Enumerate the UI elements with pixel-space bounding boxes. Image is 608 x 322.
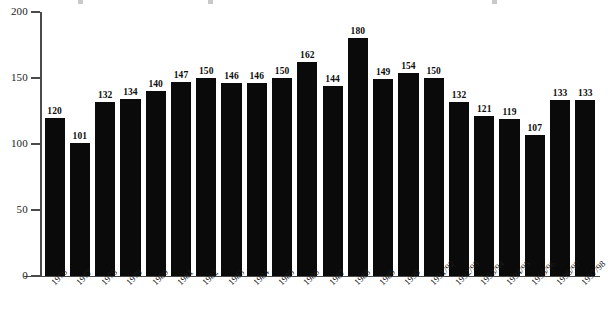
- bar-group: 119: [499, 12, 519, 276]
- bar-value-label: 119: [503, 107, 517, 117]
- y-tick-0: [31, 275, 40, 276]
- bar-value-label: 146: [250, 71, 265, 81]
- bar-value-label: 132: [452, 90, 467, 100]
- bar: [221, 83, 241, 276]
- bar: [323, 86, 343, 276]
- bar-value-label: 149: [376, 67, 391, 77]
- bar-group: 144: [323, 12, 343, 276]
- bar-value-label: 107: [528, 123, 543, 133]
- bar: [424, 78, 444, 276]
- bar-group: 120: [45, 12, 65, 276]
- bar-value-label: 133: [553, 88, 568, 98]
- x-axis-labels: 1976197719781979198019811982198319841985…: [42, 278, 598, 322]
- bar-value-label: 146: [224, 71, 239, 81]
- bar-value-label: 132: [98, 90, 113, 100]
- bar: [449, 102, 469, 276]
- bar-value-label: 180: [351, 26, 366, 36]
- bar-value-label: 134: [123, 87, 138, 97]
- bar-group: 149: [373, 12, 393, 276]
- bar-group: 133: [575, 12, 595, 276]
- bar-value-label: 133: [578, 88, 593, 98]
- y-tick-50: [31, 209, 40, 210]
- bar-group: 150: [196, 12, 216, 276]
- y-tick-label: 100: [0, 137, 28, 149]
- bar-value-label: 101: [73, 131, 88, 141]
- bar: [499, 119, 519, 276]
- bar-group: 146: [247, 12, 267, 276]
- bar-group: 154: [398, 12, 418, 276]
- bar-group: 101: [70, 12, 90, 276]
- bar-group: 150: [272, 12, 292, 276]
- bar: [272, 78, 292, 276]
- bar: [348, 38, 368, 276]
- bar-group: 134: [120, 12, 140, 276]
- scan-artifact: [0, 0, 602, 6]
- bar-group: 150: [424, 12, 444, 276]
- bar: [297, 62, 317, 276]
- bar-group: 162: [297, 12, 317, 276]
- bar: [525, 135, 545, 276]
- bar: [171, 82, 191, 276]
- bar-value-label: 144: [325, 74, 340, 84]
- bar-group: 140: [146, 12, 166, 276]
- y-tick-label: 50: [0, 203, 28, 215]
- bar: [247, 83, 267, 276]
- y-tick-label: 150: [0, 71, 28, 83]
- bar: [95, 102, 115, 276]
- bar-group: 132: [449, 12, 469, 276]
- bar: [575, 100, 595, 276]
- y-tick-100: [31, 143, 40, 144]
- bar-value-label: 150: [426, 66, 441, 76]
- bar-value-label: 121: [477, 104, 492, 114]
- bar: [45, 118, 65, 276]
- y-tick-label: 200: [0, 5, 28, 17]
- y-tick-200: [31, 11, 40, 12]
- bar: [196, 78, 216, 276]
- bar-value-label: 150: [199, 66, 214, 76]
- bar: [398, 73, 418, 276]
- bar-value-label: 140: [148, 79, 163, 89]
- y-tick-label: 0: [0, 269, 28, 281]
- bar-group: 133: [550, 12, 570, 276]
- bar: [474, 116, 494, 276]
- bar: [120, 99, 140, 276]
- bar: [550, 100, 570, 276]
- bar-group: 180: [348, 12, 368, 276]
- bar-group: 107: [525, 12, 545, 276]
- bar: [70, 143, 90, 276]
- y-tick-150: [31, 77, 40, 78]
- bar-group: 146: [221, 12, 241, 276]
- bar-group: 121: [474, 12, 494, 276]
- bar-value-label: 162: [300, 50, 315, 60]
- bar-group: 147: [171, 12, 191, 276]
- bar-value-label: 120: [47, 106, 62, 116]
- bar: [373, 79, 393, 276]
- bar-value-label: 147: [174, 70, 189, 80]
- bar-value-label: 154: [401, 61, 416, 71]
- bar-value-label: 150: [275, 66, 290, 76]
- bar-group: 132: [95, 12, 115, 276]
- plot-area: 1201011321341401471501461461501621441801…: [42, 12, 598, 276]
- bar: [146, 91, 166, 276]
